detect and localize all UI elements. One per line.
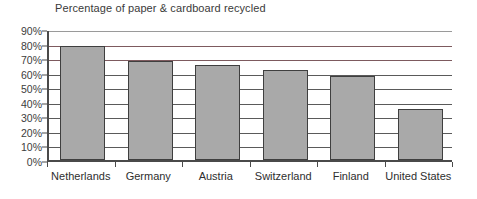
x-tick-mark [452,162,453,167]
y-tick-label: 60% [21,69,42,81]
bar-netherlands [60,46,105,160]
x-tick-mark [47,162,48,167]
chart-title: Percentage of paper & cardboard recycled [55,2,266,14]
x-tick-mark [250,162,251,167]
gridline-30% [49,118,452,119]
y-tick-label: 50% [21,83,42,95]
chart-container: Percentage of paper & cardboard recycled… [0,0,477,199]
bar-germany [128,61,173,160]
x-axis-label: Austria [199,170,233,182]
y-tick-label: 10% [21,141,42,153]
y-tick-label: 80% [21,40,42,52]
gridline-80% [49,46,452,47]
gridline-70% [49,60,452,61]
bar-finland [330,76,375,160]
x-axis-label: Germany [126,170,171,182]
x-tick-mark [385,162,386,167]
plot-inner [49,31,452,160]
x-axis: NetherlandsGermanyAustriaSwitzerlandFinl… [47,170,452,192]
y-tick-label: 20% [21,127,42,139]
gridline-60% [49,75,452,76]
gridline-40% [49,104,452,105]
x-tick-mark [317,162,318,167]
gridline-90% [49,31,452,32]
x-axis-label: Switzerland [255,170,312,182]
gridline-50% [49,89,452,90]
y-tick-label: 30% [21,112,42,124]
x-tick-mark [182,162,183,167]
gridline-20% [49,133,452,134]
bar-austria [195,65,240,160]
bar-united-states [398,109,443,160]
y-tick-label: 70% [21,54,42,66]
plot-area [47,31,452,162]
x-axis-label: Netherlands [51,170,110,182]
x-axis-label: United States [385,170,451,182]
gridline-10% [49,147,452,148]
y-axis: 90%80%70%60%50%40%30%20%10%0% [0,31,42,162]
y-tick-label: 40% [21,98,42,110]
y-tick-label: 90% [21,25,42,37]
x-tick-mark [115,162,116,167]
y-tick-label: 0% [27,156,42,168]
x-axis-label: Finland [333,170,369,182]
bar-switzerland [263,70,308,160]
